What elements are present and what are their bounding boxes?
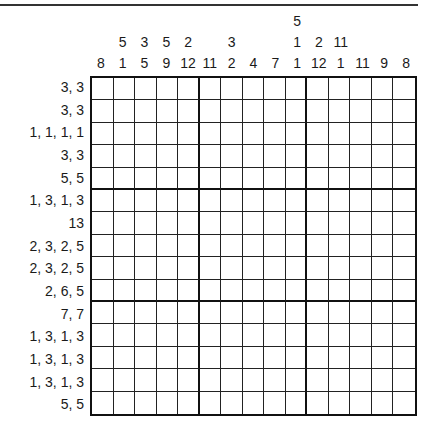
grid-cell[interactable]	[329, 100, 351, 122]
grid-cell[interactable]	[114, 369, 136, 391]
grid-cell[interactable]	[286, 123, 308, 145]
grid-cell[interactable]	[329, 212, 351, 234]
grid-cell[interactable]	[286, 190, 308, 212]
grid-cell[interactable]	[178, 347, 200, 369]
grid-cell[interactable]	[135, 190, 157, 212]
grid-cell[interactable]	[350, 347, 372, 369]
grid-cell[interactable]	[243, 347, 265, 369]
grid-cell[interactable]	[286, 369, 308, 391]
grid-cell[interactable]	[372, 100, 394, 122]
grid-cell[interactable]	[372, 190, 394, 212]
grid-cell[interactable]	[221, 280, 243, 302]
grid-cell[interactable]	[329, 347, 351, 369]
grid-cell[interactable]	[92, 190, 114, 212]
grid-cell[interactable]	[329, 190, 351, 212]
grid-cell[interactable]	[157, 190, 179, 212]
grid-cell[interactable]	[200, 347, 222, 369]
grid-cell[interactable]	[92, 100, 114, 122]
grid-cell[interactable]	[393, 369, 415, 391]
grid-cell[interactable]	[264, 100, 286, 122]
grid-cell[interactable]	[264, 392, 286, 414]
grid-cell[interactable]	[135, 100, 157, 122]
grid-cell[interactable]	[264, 302, 286, 324]
grid-cell[interactable]	[221, 190, 243, 212]
grid-cell[interactable]	[157, 369, 179, 391]
grid-cell[interactable]	[157, 257, 179, 279]
grid-cell[interactable]	[286, 145, 308, 167]
grid-cell[interactable]	[221, 100, 243, 122]
grid-cell[interactable]	[372, 235, 394, 257]
grid-cell[interactable]	[286, 235, 308, 257]
grid-cell[interactable]	[178, 168, 200, 190]
grid-cell[interactable]	[286, 392, 308, 414]
grid-cell[interactable]	[92, 369, 114, 391]
grid-cell[interactable]	[264, 168, 286, 190]
grid-cell[interactable]	[114, 212, 136, 234]
grid-cell[interactable]	[221, 347, 243, 369]
grid-cell[interactable]	[114, 145, 136, 167]
grid-cell[interactable]	[243, 235, 265, 257]
grid-cell[interactable]	[350, 190, 372, 212]
grid-cell[interactable]	[221, 235, 243, 257]
grid-cell[interactable]	[135, 168, 157, 190]
grid-cell[interactable]	[243, 168, 265, 190]
grid-cell[interactable]	[178, 280, 200, 302]
grid-cell[interactable]	[307, 280, 329, 302]
grid-cell[interactable]	[393, 145, 415, 167]
grid-cell[interactable]	[221, 257, 243, 279]
grid-cell[interactable]	[243, 257, 265, 279]
grid-cell[interactable]	[200, 257, 222, 279]
grid-cell[interactable]	[243, 190, 265, 212]
grid-cell[interactable]	[393, 168, 415, 190]
grid-cell[interactable]	[372, 212, 394, 234]
grid-cell[interactable]	[221, 302, 243, 324]
grid-cell[interactable]	[350, 324, 372, 346]
grid-cell[interactable]	[200, 212, 222, 234]
grid-cell[interactable]	[114, 257, 136, 279]
grid-cell[interactable]	[92, 257, 114, 279]
grid-cell[interactable]	[350, 280, 372, 302]
grid-cell[interactable]	[393, 235, 415, 257]
grid-cell[interactable]	[114, 302, 136, 324]
grid-cell[interactable]	[243, 392, 265, 414]
grid-cell[interactable]	[264, 145, 286, 167]
grid-cell[interactable]	[372, 392, 394, 414]
grid-cell[interactable]	[200, 168, 222, 190]
grid-cell[interactable]	[286, 78, 308, 100]
grid-cell[interactable]	[264, 369, 286, 391]
grid-cell[interactable]	[178, 190, 200, 212]
grid-cell[interactable]	[307, 78, 329, 100]
grid-cell[interactable]	[114, 324, 136, 346]
grid-cell[interactable]	[114, 280, 136, 302]
grid-cell[interactable]	[157, 100, 179, 122]
grid-cell[interactable]	[114, 168, 136, 190]
grid-cell[interactable]	[350, 369, 372, 391]
grid-cell[interactable]	[329, 392, 351, 414]
grid-cell[interactable]	[157, 168, 179, 190]
grid-cell[interactable]	[135, 369, 157, 391]
grid-cell[interactable]	[114, 235, 136, 257]
grid-cell[interactable]	[178, 235, 200, 257]
grid-cell[interactable]	[350, 100, 372, 122]
grid-cell[interactable]	[157, 347, 179, 369]
grid-cell[interactable]	[350, 302, 372, 324]
grid-cell[interactable]	[264, 212, 286, 234]
grid-cell[interactable]	[264, 190, 286, 212]
grid-cell[interactable]	[372, 369, 394, 391]
grid-cell[interactable]	[135, 347, 157, 369]
grid-cell[interactable]	[393, 212, 415, 234]
grid-cell[interactable]	[329, 324, 351, 346]
grid-cell[interactable]	[307, 100, 329, 122]
grid-cell[interactable]	[178, 369, 200, 391]
grid-cell[interactable]	[135, 123, 157, 145]
grid-cell[interactable]	[92, 235, 114, 257]
grid-cell[interactable]	[135, 78, 157, 100]
grid-cell[interactable]	[307, 212, 329, 234]
grid-cell[interactable]	[393, 78, 415, 100]
grid-cell[interactable]	[329, 235, 351, 257]
grid-cell[interactable]	[178, 212, 200, 234]
grid-cell[interactable]	[393, 190, 415, 212]
grid-cell[interactable]	[286, 168, 308, 190]
grid-cell[interactable]	[307, 123, 329, 145]
grid-cell[interactable]	[329, 302, 351, 324]
